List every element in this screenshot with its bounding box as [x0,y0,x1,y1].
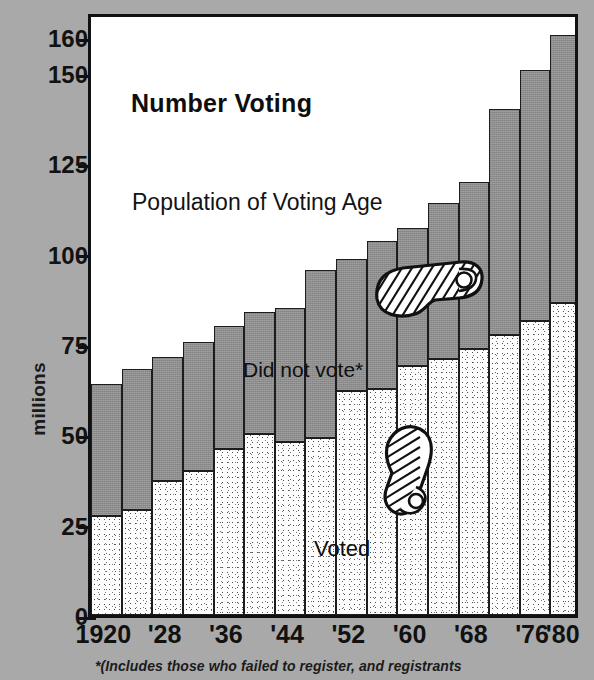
bar-1932 [183,342,214,615]
bar-segment-voted [91,516,122,615]
y-tick-label: 125 [14,153,88,177]
chart-title: Number Voting [131,89,312,118]
bar-segment-did-not-vote [91,384,122,516]
plot-area: Number Voting Population of Voting Age D… [88,14,578,618]
x-tick-label-1944: '44 [270,622,304,647]
x-tick-label-1920: 1920 [76,622,132,647]
y-tick-label: 50 [14,424,88,448]
bar-1924 [122,369,153,615]
label-did-not-vote: Did not vote* [243,358,363,382]
x-tick-label-1980: '80 [546,622,580,647]
bar-segment-voted [122,510,153,615]
bar-segment-did-not-vote [122,369,153,510]
y-tick-label: 25 [14,515,88,539]
bar-segment-did-not-vote [550,35,578,302]
x-tick-label-1968: '68 [454,622,488,647]
shoe-icon [376,423,442,519]
bar-segment-voted [520,321,551,615]
x-tick-label-1960: '60 [393,622,427,647]
bar-segment-voted [275,442,306,615]
bar-1972 [489,109,520,615]
bar-segment-did-not-vote [520,70,551,321]
bar-segment-voted [152,481,183,615]
bar-segment-voted [305,438,336,615]
bar-1968 [459,182,490,616]
bar-segment-did-not-vote [305,270,336,438]
footnote: *(Includes those who failed to register,… [95,658,462,674]
bar-1980 [550,35,578,615]
bar-segment-voted [459,349,490,615]
chart-figure: millions 0255075100125150160 Number Voti… [0,0,594,680]
bar-segment-voted [183,471,214,616]
bar-1944 [275,308,306,615]
bar-segment-did-not-vote [183,342,214,470]
y-tick-label: 75 [14,334,88,358]
bar-segment-voted [244,434,275,615]
y-tick-label: 160 [14,27,88,51]
bar-segment-did-not-vote [214,326,245,449]
bar-1920 [91,384,122,615]
bar-segment-did-not-vote [489,109,520,335]
bar-segment-voted [336,391,367,615]
x-tick-label-1952: '52 [331,622,365,647]
bar-segment-did-not-vote [152,357,183,482]
bar-segment-voted [489,335,520,615]
x-tick-label-1936: '36 [209,622,243,647]
label-population-of-voting-age: Population of Voting Age [132,189,383,216]
label-voted: Voted [314,536,370,562]
x-tick-label-1928: '28 [148,622,182,647]
bar-segment-voted [550,303,578,615]
bar-1928 [152,357,183,615]
y-tick-label: 150 [14,63,88,87]
bar-1936 [214,326,245,615]
bar-segment-voted [214,449,245,615]
x-tick-label-1976: '76 [515,622,549,647]
bar-1976 [520,70,551,615]
bar-1948 [305,270,336,615]
shoe-icon [369,259,485,319]
y-tick-label: 100 [14,244,88,268]
